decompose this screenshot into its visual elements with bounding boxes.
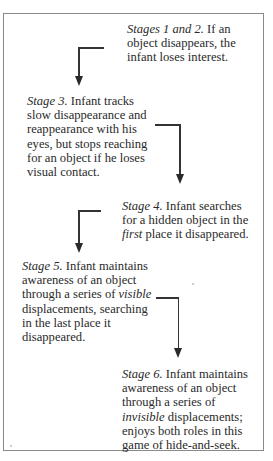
arrow-horizontal-segment [78, 210, 101, 212]
arrow-down-icon [75, 76, 83, 86]
stage-line: displacements, searching [22, 302, 151, 316]
stage-1-2-text: Stages 1 and 2. If an object disappears,… [127, 22, 236, 65]
arrow-vertical-segment [178, 297, 180, 350]
scan-speck [10, 445, 12, 447]
stage-5-text: Stage 5. Infant maintains awareness of a… [22, 259, 151, 344]
stage-line: reappearance with his [27, 122, 147, 136]
stage-4-text: Stage 4. Infant searches for a hidden ob… [122, 199, 249, 242]
stage-line: visual contact. [27, 165, 147, 179]
stage-line: awareness of an object [22, 273, 151, 287]
stage-line: through a series of visible [22, 287, 151, 301]
stage-line: game of hide-and-seek. [122, 438, 248, 452]
stage-line: in the last place it [22, 316, 151, 330]
stage-line: disappeared. [22, 330, 151, 344]
stage-line: enjoys both roles in this [122, 424, 248, 438]
arrow-down-icon [174, 348, 182, 358]
arrow-horizontal-segment [156, 297, 179, 299]
stage-label: Stage 6. [122, 367, 163, 381]
stage-line: infant loses interest. [127, 50, 236, 64]
stage-line: first place it disappeared. [122, 227, 249, 241]
stage-line: Stages 1 and 2. If an [127, 22, 236, 36]
arrow-horizontal-segment [78, 47, 104, 49]
stage-label: Stage 3. [27, 94, 68, 108]
stage-line: Stage 4. Infant searches [122, 199, 249, 213]
stage-label: Stage 4. [122, 199, 163, 213]
stage-3-text: Stage 3. Infant tracks slow disappearanc… [27, 94, 147, 179]
stage-line: for an object if he loses [27, 151, 147, 165]
stage-label: Stages 1 and 2. [127, 22, 204, 36]
stage-line: eyes, but stops reaching [27, 137, 147, 151]
arrow-down-icon [176, 174, 184, 184]
stage-line: through a series of [122, 395, 248, 409]
stage-6-text: Stage 6. Infant maintains awareness of a… [122, 367, 248, 452]
stage-line: Stage 5. Infant maintains [22, 259, 151, 273]
arrow-down-icon [75, 243, 83, 253]
stage-label: Stage 5. [22, 259, 63, 273]
arrow-vertical-segment [78, 210, 80, 246]
stage-line: for a hidden object in the [122, 213, 249, 227]
stage-line: slow disappearance and [27, 108, 147, 122]
stage-line: object disappears, the [127, 36, 236, 50]
stage-line: awareness of an object [122, 381, 248, 395]
stage-line: invisible displacements; [122, 410, 248, 424]
stage-line: Stage 6. Infant maintains [122, 367, 248, 381]
stage-line: Stage 3. Infant tracks [27, 94, 147, 108]
arrow-horizontal-segment [155, 124, 181, 126]
scan-speck [192, 283, 194, 285]
arrow-vertical-segment [179, 124, 181, 176]
arrow-vertical-segment [78, 47, 80, 79]
